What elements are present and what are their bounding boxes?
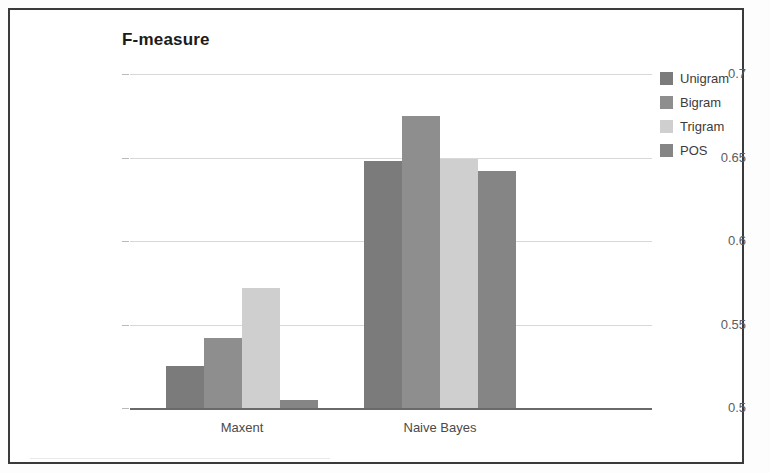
y-axis-tick-mark: [122, 325, 129, 326]
legend-swatch-bigram: [660, 96, 673, 109]
y-axis-tick-mark: [122, 158, 129, 159]
bar-naive-bayes-bigram: [402, 116, 440, 408]
y-axis-tick-mark: [122, 241, 129, 242]
y-axis-tick-label: 0.6: [684, 233, 746, 248]
legend-item: POS: [660, 140, 760, 161]
bar-maxent-trigram: [242, 288, 280, 408]
bar-naive-bayes-unigram: [364, 161, 402, 408]
bar-maxent-bigram: [204, 338, 242, 408]
bar-naive-bayes-trigram: [440, 159, 478, 408]
legend-label: Trigram: [680, 119, 724, 134]
bar-maxent-unigram: [166, 366, 204, 408]
legend-label: POS: [680, 143, 707, 158]
chart-canvas: F-measure 0.50.550.60.650.7 MaxentNaive …: [10, 10, 746, 466]
x-axis-group-label: Maxent: [162, 420, 322, 435]
legend-swatch-unigram: [660, 72, 673, 85]
y-axis-tick-mark: [122, 74, 129, 75]
gridline: [130, 74, 652, 75]
bar-naive-bayes-pos: [478, 171, 516, 408]
chart-border-frame: F-measure 0.50.550.60.650.7 MaxentNaive …: [8, 8, 744, 464]
chart-title: F-measure: [122, 30, 210, 50]
x-axis-group-label: Naive Bayes: [360, 420, 520, 435]
bar-maxent-pos: [280, 400, 318, 408]
legend-label: Bigram: [680, 95, 721, 110]
scanned-page: F-measure 0.50.550.60.650.7 MaxentNaive …: [0, 0, 770, 473]
y-axis-tick-label: 0.55: [684, 317, 746, 332]
y-axis-tick-label: 0.5: [684, 400, 746, 415]
scan-artifact: [30, 458, 330, 459]
legend-swatch-trigram: [660, 120, 673, 133]
legend-item: Trigram: [660, 116, 760, 137]
chart-legend: UnigramBigramTrigramPOS: [660, 68, 760, 164]
legend-label: Unigram: [680, 71, 729, 86]
x-axis-line: [130, 408, 652, 410]
gridline: [130, 158, 652, 159]
y-axis-tick-mark: [122, 408, 129, 409]
legend-item: Bigram: [660, 92, 760, 113]
legend-item: Unigram: [660, 68, 760, 89]
legend-swatch-pos: [660, 144, 673, 157]
